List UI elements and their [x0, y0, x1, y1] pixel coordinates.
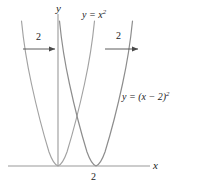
parent-parabola-equation-text: y = x: [82, 9, 103, 20]
shift-amount-label-left: 2: [36, 32, 41, 42]
parent-parabola-equation-label: y = x2: [82, 10, 106, 20]
y-axis-label: y: [56, 3, 61, 14]
parabola-translation-figure: y x y = x2 y = (x − 2)2 2 2 2: [0, 0, 197, 188]
x-axis-label: x: [153, 160, 158, 171]
shifted-parabola-equation-text: y = (x − 2): [122, 91, 166, 102]
shifted-parabola-equation-label: y = (x − 2)2: [122, 92, 169, 102]
shifted-parabola-exponent: 2: [166, 90, 169, 97]
parent-parabola-exponent: 2: [103, 8, 106, 15]
x-axis-tick-label-2: 2: [91, 172, 96, 182]
shift-amount-label-right: 2: [116, 31, 121, 41]
